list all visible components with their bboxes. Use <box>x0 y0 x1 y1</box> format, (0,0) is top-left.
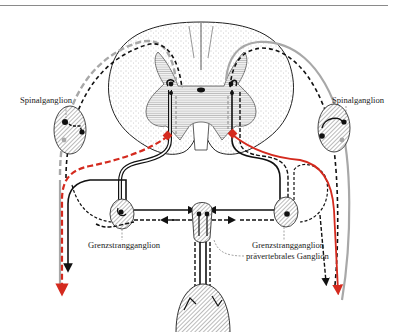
spinal-ganglion-left <box>54 106 86 154</box>
label-sympathetic-chain-ganglion-right: Grenzstrangganglion <box>252 240 324 250</box>
label-sympathetic-chain-ganglion-left: Grenzstrangganglion <box>88 240 160 250</box>
prevertebral-ganglion <box>192 203 212 243</box>
autonomic-pathway-diagram <box>0 0 402 332</box>
label-spinal-ganglion-right: Spinalganglion <box>332 95 384 105</box>
effector-organ <box>176 284 230 332</box>
sympathetic-chain-ganglion-right <box>274 197 298 227</box>
spinal-ganglion-right <box>318 104 350 152</box>
label-spinal-ganglion-left: Spinalganglion <box>20 95 72 105</box>
label-prevertebral-ganglion: prävertebrales Ganglion <box>246 251 329 261</box>
